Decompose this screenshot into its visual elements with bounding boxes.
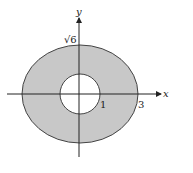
ellipse-x-intercept-label: 3 [138, 99, 144, 110]
x-axis-label: x [163, 88, 169, 99]
y-axis-label: y [75, 6, 82, 17]
ellipse-y-intercept-label: √6 [64, 34, 77, 45]
circle-radius-label: 1 [100, 99, 106, 110]
region-diagram: x y √6 1 3 [0, 0, 193, 173]
